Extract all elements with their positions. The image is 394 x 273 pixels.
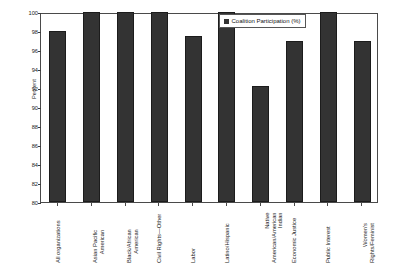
bar [49,31,66,202]
y-tick-mark [38,127,41,128]
y-tick-label: 88 [20,124,38,130]
plot-area [40,13,378,203]
y-tick-label: 90 [20,105,38,111]
x-axis-label-line: Black/African [126,229,133,263]
y-tick-label: 96 [20,48,38,54]
x-tick-mark [57,203,58,206]
bar [117,12,134,202]
y-tick-label: 82 [20,181,38,187]
x-axis-label: Civil Rights—Other [156,214,163,263]
x-axis-label: Black/AfricanAmerican [126,229,139,263]
y-tick-mark [38,184,41,185]
y-tick-mark [38,13,41,14]
x-axis-label-line: Asian Pacific [92,230,99,263]
x-axis-label-line: Native [264,212,271,263]
bar [83,12,100,202]
y-tick-mark [38,32,41,33]
x-axis-label: NativeAmerican/AmericanIndian [264,212,284,263]
bar [286,41,303,203]
y-tick-mark [38,89,41,90]
x-tick-mark [158,203,159,206]
x-tick-mark [125,203,126,206]
x-axis-label: Asian PacificAmerican [92,230,105,263]
bar-chart: Percent 10098969492908886848280 Coalitio… [0,0,394,273]
x-axis-label-line: All organizations [55,220,62,263]
x-axis-label: All organizations [55,220,62,263]
bar [252,86,269,202]
x-tick-mark [226,203,227,206]
x-axis-label: Women'sRights/Feminist [362,223,375,263]
x-tick-mark [260,203,261,206]
x-tick-mark [361,203,362,206]
y-tick-label: 86 [20,143,38,149]
bars-group [41,14,377,202]
x-axis-label-line: Civil Rights—Other [156,214,163,263]
x-axis-label-line: American/American [271,212,278,263]
y-tick-mark [38,70,41,71]
x-axis-label-line: American [132,229,139,263]
y-tick-label: 98 [20,29,38,35]
x-axis-label-line: Rights/Feminist [369,223,376,263]
y-tick-mark [38,51,41,52]
bar [185,36,202,202]
y-tick-label: 80 [20,200,38,206]
x-tick-mark [192,203,193,206]
x-axis-label: Latino/Hispanic [224,223,231,263]
bar [151,12,168,202]
y-tick-mark [38,165,41,166]
y-tick-label: 84 [20,162,38,168]
bar [354,41,371,203]
x-tick-mark [91,203,92,206]
y-tick-label: 94 [20,67,38,73]
x-axis-label-line: Labor [190,248,197,263]
chart-legend: Coalition Participation (%) [219,14,306,28]
x-axis-label-line: American [98,230,105,263]
x-tick-mark [327,203,328,206]
y-tick-label: 100 [20,10,38,16]
bar [218,12,235,202]
x-axis-label: Public Interest [325,226,332,263]
x-axis-label-line: Latino/Hispanic [224,223,231,263]
legend-swatch-icon [224,19,229,24]
x-axis-label-line: Economic Justice [291,218,298,263]
x-axis-label-line: Indian [277,212,284,263]
y-axis-tick-labels: 10098969492908886848280 [18,0,38,273]
x-tick-mark [294,203,295,206]
y-tick-mark [38,203,41,204]
y-tick-mark [38,108,41,109]
y-tick-label: 92 [20,86,38,92]
legend-label: Coalition Participation (%) [232,18,301,25]
x-axis-label: Labor [190,248,197,263]
bar [320,12,337,202]
x-axis-label: Economic Justice [291,218,298,263]
y-tick-mark [38,146,41,147]
x-axis-label-line: Public Interest [325,226,332,263]
